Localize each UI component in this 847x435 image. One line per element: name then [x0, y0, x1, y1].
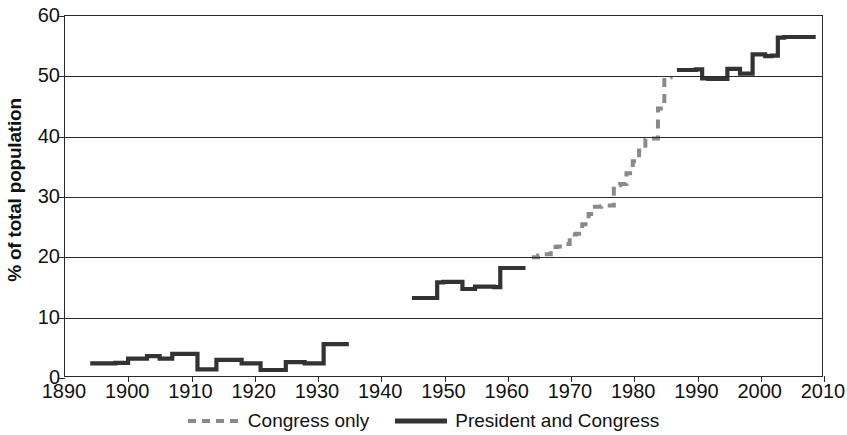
x-axis-tick-label: 1900	[105, 379, 150, 403]
legend-swatch	[395, 416, 447, 426]
x-axis-tick-label: 1980	[611, 379, 656, 403]
x-axis-tick-label: 1910	[168, 379, 213, 403]
series-line	[412, 268, 526, 298]
gridline	[65, 257, 822, 258]
x-axis-tick-label: 1950	[421, 379, 466, 403]
x-axis-tick-label: 1940	[358, 379, 403, 403]
x-axis-tick-label: 1930	[295, 379, 340, 403]
x-axis-tick-label: 2010	[801, 379, 846, 403]
y-axis-tick-labels: 0102030405060	[24, 0, 60, 435]
legend-label: President and Congress	[455, 410, 659, 432]
x-axis-tick-label: 1970	[548, 379, 593, 403]
legend-label: Congress only	[248, 410, 369, 432]
y-axis-tick-label: 20	[26, 246, 60, 266]
y-axis-tick	[59, 16, 65, 17]
gridline	[65, 318, 822, 319]
gridline	[65, 137, 822, 138]
y-axis-tick	[59, 257, 65, 258]
y-axis-tick	[59, 197, 65, 198]
y-axis-tick	[59, 76, 65, 77]
gridline	[65, 197, 822, 198]
y-axis-title-text: % of total population	[4, 98, 26, 282]
series-line	[532, 76, 671, 257]
y-axis-tick	[59, 137, 65, 138]
y-axis-tick-label: 40	[26, 126, 60, 146]
legend-item[interactable]: President and Congress	[395, 410, 659, 432]
x-axis-tick-label: 1960	[485, 379, 530, 403]
legend-swatch	[188, 416, 240, 426]
x-axis-tick-labels: 1890190019101920193019401950196019701980…	[64, 379, 823, 407]
series-line	[90, 344, 349, 370]
x-axis-tick-label: 1890	[42, 379, 87, 403]
y-axis-tick-label: 10	[26, 307, 60, 327]
y-axis-tick	[59, 318, 65, 319]
legend-item[interactable]: Congress only	[188, 410, 369, 432]
gridline	[65, 76, 822, 77]
y-axis-tick-label: 30	[26, 186, 60, 206]
series-line	[677, 37, 816, 79]
y-axis-tick-label: 60	[26, 5, 60, 25]
x-axis-tick-label: 1990	[674, 379, 719, 403]
chart-legend: Congress onlyPresident and Congress	[0, 406, 847, 435]
plot-area	[64, 15, 823, 377]
x-axis-tick-label: 1920	[232, 379, 277, 403]
x-axis-tick-label: 2000	[738, 379, 783, 403]
y-axis-tick-label: 50	[26, 65, 60, 85]
series-layer	[65, 16, 822, 376]
chart-container: % of total population 0102030405060 1890…	[0, 0, 847, 435]
